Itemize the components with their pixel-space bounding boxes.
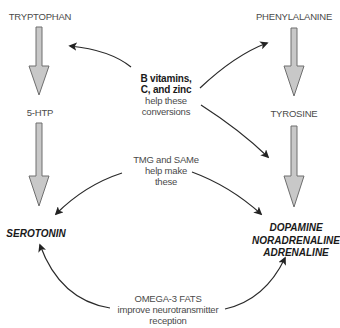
note-omega3-line2: improve neurotransmitter	[118, 304, 219, 315]
note-omega3-line1: OMEGA-3 FATS	[118, 293, 219, 304]
note-tmg-line1: TMG and SAMe	[133, 154, 199, 165]
curve-arrow-omega3-to-serotonin	[40, 245, 110, 308]
label-adrenaline: ADRENALINE	[252, 247, 340, 260]
label-noradrenaline: NORADRENALINE	[252, 235, 340, 248]
note-omega3: OMEGA-3 FATS improve neurotransmitter re…	[118, 293, 219, 326]
label-serotonin: SEROTONIN	[6, 228, 65, 241]
label-tyrosine: TYROSINE	[271, 108, 318, 119]
note-b-vitamins: B vitamins, C, and zinc help these conve…	[140, 73, 191, 117]
curve-arrow-bvitamins-to-right	[200, 43, 267, 88]
curve-arrow-tmg-to-dopamine	[192, 172, 261, 214]
note-tmg-same: TMG and SAMe help make these	[133, 154, 199, 187]
label-tryptophan: TRYPTOPHAN	[9, 11, 72, 22]
note-omega3-line3: reception	[118, 315, 219, 326]
label-phenylalanine: PHENYLALANINE	[256, 11, 332, 22]
curve-arrow-tmg-to-serotonin	[56, 173, 122, 214]
note-b-vitamins-line3: help these	[140, 95, 191, 106]
note-tmg-line3: these	[133, 176, 199, 187]
curve-arrow-bvitamins-to-left	[70, 46, 131, 67]
label-catecholamines: DOPAMINE NORADRENALINE ADRENALINE	[252, 222, 340, 260]
curve-arrow-bvitamins-to-dopamine	[201, 105, 268, 157]
block-arrow-5htp-to-serotonin	[29, 123, 49, 206]
block-arrow-phenylalanine-to-tyrosine	[284, 28, 304, 96]
curve-arrow-omega3-to-dopamine	[225, 258, 285, 309]
note-b-vitamins-line2: C, and zinc	[140, 84, 191, 95]
label-5htp: 5-HTP	[27, 107, 53, 118]
label-dopamine: DOPAMINE	[252, 222, 340, 235]
block-arrow-tyrosine-to-dopamine	[284, 126, 304, 207]
block-arrow-tryptophan-to-5htp	[29, 27, 49, 95]
note-tmg-line2: help make	[133, 165, 199, 176]
note-b-vitamins-line1: B vitamins,	[140, 73, 191, 84]
note-b-vitamins-line4: conversions	[140, 106, 191, 117]
